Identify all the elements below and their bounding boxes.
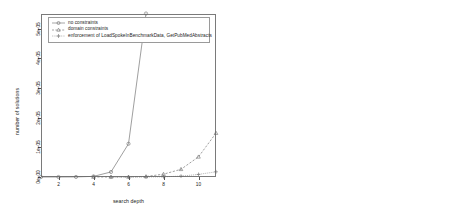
y-tick-label: 0e+00 <box>36 167 41 187</box>
legend-key-plus-dotted-icon <box>52 33 65 39</box>
data-point-marker <box>197 172 201 176</box>
x-tick-mark <box>129 177 130 180</box>
x-tick-mark <box>94 177 95 180</box>
y-tick-label: 2e+05 <box>36 108 41 128</box>
legend-label: enforcement of LoadSpokeInBenchmarkData,… <box>68 33 212 39</box>
x-tick-label: 4 <box>85 182 103 187</box>
x-tick-mark <box>199 177 200 180</box>
x-tick-mark <box>59 177 60 180</box>
legend-key-triangle-dashed-icon <box>52 27 65 33</box>
x-axis-label-linear: search depth <box>41 198 216 204</box>
y-tick-label: 1e+05 <box>36 137 41 157</box>
x-tick-label: 10 <box>190 182 208 187</box>
data-point-marker <box>179 174 183 178</box>
x-tick-label: 2 <box>50 182 68 187</box>
chart-panel-linear: no constraints domain constraints <box>0 0 225 217</box>
y-tick-label: 5e+05 <box>36 19 41 39</box>
x-tick-label: 8 <box>155 182 173 187</box>
legend-key-circle-solid-icon <box>52 20 65 26</box>
data-point-marker <box>144 175 148 179</box>
data-layer-log <box>225 0 450 217</box>
chart-panel-log: search depth number of solutions 2468101… <box>225 0 450 217</box>
data-point-marker <box>214 170 218 174</box>
x-tick-mark <box>164 177 165 180</box>
y-tick-label: 4e+05 <box>36 48 41 68</box>
legend: no constraints domain constraints <box>48 17 210 43</box>
x-tick-label: 6 <box>120 182 138 187</box>
y-axis-label-linear: number of solutions <box>14 88 20 135</box>
legend-item: enforcement of LoadSpokeInBenchmarkData,… <box>52 33 206 39</box>
y-tick-label: 3e+05 <box>36 78 41 98</box>
figure-two-panel-chart: no constraints domain constraints <box>0 0 450 217</box>
data-point-marker <box>214 131 218 134</box>
